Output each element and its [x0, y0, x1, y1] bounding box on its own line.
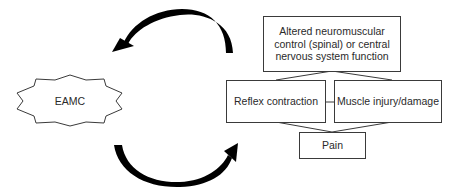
- line-altered-to-muscle: [332, 71, 392, 80]
- eamc-label: EAMC: [40, 95, 100, 107]
- altered-control-line-3: nervous system function: [274, 50, 390, 63]
- muscle-injury-label: Muscle injury/damage: [337, 95, 439, 108]
- bottom-curved-arrow-icon: [114, 143, 238, 187]
- line-muscle-to-pain: [332, 122, 392, 132]
- pain-label: Pain: [322, 139, 343, 152]
- altered-control-line-2: control (spinal) or central: [274, 38, 390, 51]
- altered-control-box: Altered neuromuscular control (spinal) o…: [263, 16, 401, 72]
- line-altered-to-reflex: [276, 71, 332, 80]
- line-reflex-to-pain: [276, 122, 332, 132]
- top-curved-arrow-icon: [112, 9, 233, 53]
- pain-box: Pain: [299, 132, 366, 159]
- altered-control-line-1: Altered neuromuscular: [274, 25, 390, 38]
- reflex-contraction-label: Reflex contraction: [234, 95, 318, 108]
- reflex-contraction-box: Reflex contraction: [226, 80, 326, 123]
- muscle-injury-box: Muscle injury/damage: [334, 80, 442, 123]
